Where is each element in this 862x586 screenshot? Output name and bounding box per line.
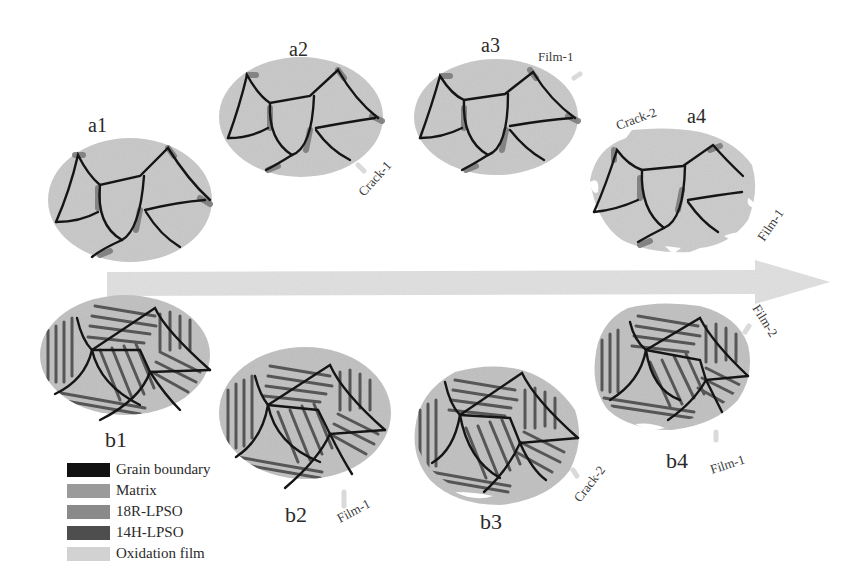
legend-label: Grain boundary [116,461,211,478]
legend-item-grain-boundary: Grain boundary [67,459,211,480]
annotation-crack-2-b3: Crack-2 [571,463,609,505]
legend-label: 14H-LPSO [116,524,184,541]
legend-item-14h-lpso: 14H-LPSO [67,522,211,543]
legend-swatch-18r-lpso [67,505,110,519]
legend-swatch-14h-lpso [67,526,110,540]
panel-label-b4: b4 [666,448,688,473]
panel-a2-grain-structure [219,57,383,177]
legend-item-matrix: Matrix [67,480,211,501]
panel-b1-lpso-structure [40,295,210,420]
annotation-crack-2-a4: Crack-2 [614,104,658,132]
annotation-film-1-b2: Film-1 [334,496,372,526]
legend-item-oxidation-film: Oxidation film [67,543,211,564]
annotation-crack-1: Crack-1 [355,158,394,199]
annotation-film-2-b4: Film-2 [749,302,780,340]
legend: Grain boundary Matrix 18R-LPSO 14H-LPSO … [67,459,211,564]
legend-label: 18R-LPSO [116,503,183,520]
annotation-film-1-a3: Film-1 [538,49,573,64]
panel-b4-lpso-structure [595,303,751,440]
panel-a3-grain-structure [414,59,580,175]
panel-label-a2: a2 [289,38,308,60]
panel-b2-lpso-structure [219,347,391,506]
panel-label-a4: a4 [687,105,706,127]
legend-label: Matrix [116,482,157,499]
legend-label: Oxidation film [116,545,205,562]
panel-a1-grain-structure [48,138,212,262]
panel-label-b3: b3 [480,509,502,534]
legend-swatch-grain-boundary [67,463,110,477]
legend-swatch-oxidation-film [67,547,110,561]
panel-a4-grain-structure [590,128,755,254]
annotation-film-1-a4: Film-1 [754,206,787,244]
panel-b3-lpso-structure [415,366,579,505]
panel-label-a3: a3 [481,34,500,56]
progression-arrow [107,260,830,304]
legend-swatch-matrix [67,484,110,498]
panel-label-b2: b2 [285,502,307,527]
panel-label-b1: b1 [105,427,127,452]
panel-label-a1: a1 [88,114,107,136]
legend-item-18r-lpso: 18R-LPSO [67,501,211,522]
annotation-film-1-b4: Film-1 [708,452,746,477]
